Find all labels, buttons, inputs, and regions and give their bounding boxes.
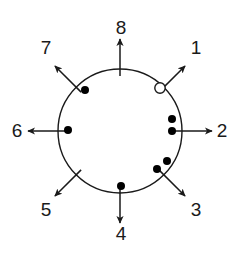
filled-marker-arm-4 — [117, 182, 125, 190]
open-marker-arm-1 — [155, 83, 165, 93]
arm-arrow-3 — [159, 170, 185, 196]
arm-label-1: 1 — [185, 38, 207, 57]
filled-marker-arm-3-lower — [153, 165, 161, 173]
filled-marker-arm-2-upper — [168, 115, 176, 123]
arm-label-3: 3 — [185, 200, 207, 219]
filled-marker-arm-7 — [81, 86, 89, 94]
filled-marker-arm-6 — [64, 126, 72, 134]
filled-marker-arm-2-lower — [168, 127, 176, 135]
arm-label-4: 4 — [110, 224, 132, 243]
marker-layer — [64, 83, 176, 190]
arm-label-7: 7 — [35, 38, 57, 57]
arm-arrow-7 — [55, 66, 81, 92]
radial-maze-figure: 12345678 — [0, 0, 240, 255]
arm-label-2: 2 — [211, 121, 233, 140]
arm-label-8: 8 — [110, 18, 132, 37]
arm-label-6: 6 — [6, 121, 28, 140]
arm-arrow-layer — [28, 39, 212, 223]
filled-marker-arm-3-upper — [163, 157, 171, 165]
arm-arrow-5 — [55, 170, 81, 196]
arm-label-5: 5 — [35, 200, 57, 219]
